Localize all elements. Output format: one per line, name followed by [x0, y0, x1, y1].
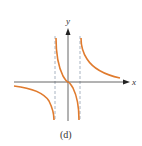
left-branch-curve: [14, 86, 54, 120]
x-axis-arrow-icon: [123, 80, 130, 85]
function-graph: y x (d): [0, 0, 142, 146]
figure-caption: (d): [60, 129, 72, 141]
right-branch-curve: [81, 38, 120, 78]
y-axis-arrow-icon: [66, 28, 71, 35]
x-axis-label: x: [131, 77, 136, 87]
middle-branch-curve: [56, 38, 79, 120]
y-axis-label: y: [65, 16, 70, 26]
